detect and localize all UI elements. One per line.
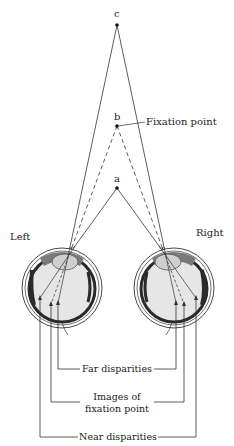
fixation-leader — [118, 122, 145, 126]
right-eye-label: Right — [196, 227, 224, 238]
label-b: b — [114, 111, 120, 122]
fixation-images-label-line2: fixation point — [85, 403, 149, 414]
left-eye-label: Left — [10, 231, 30, 242]
label-c: c — [114, 8, 120, 19]
point-c — [115, 23, 119, 27]
point-a — [115, 186, 119, 190]
left-eye — [22, 248, 102, 335]
right-eye — [134, 248, 214, 335]
points — [115, 23, 119, 190]
fixation-images-label-line1: Images of — [93, 391, 142, 402]
fixation-point-label: Fixation point — [146, 116, 217, 127]
label-a: a — [114, 173, 120, 184]
far-disparities-label: Far disparities — [82, 363, 152, 374]
binocular-disparity-diagram: c b a Fixation point Left Right Far disp… — [0, 0, 234, 446]
near-disparities-label: Near disparities — [79, 431, 157, 442]
